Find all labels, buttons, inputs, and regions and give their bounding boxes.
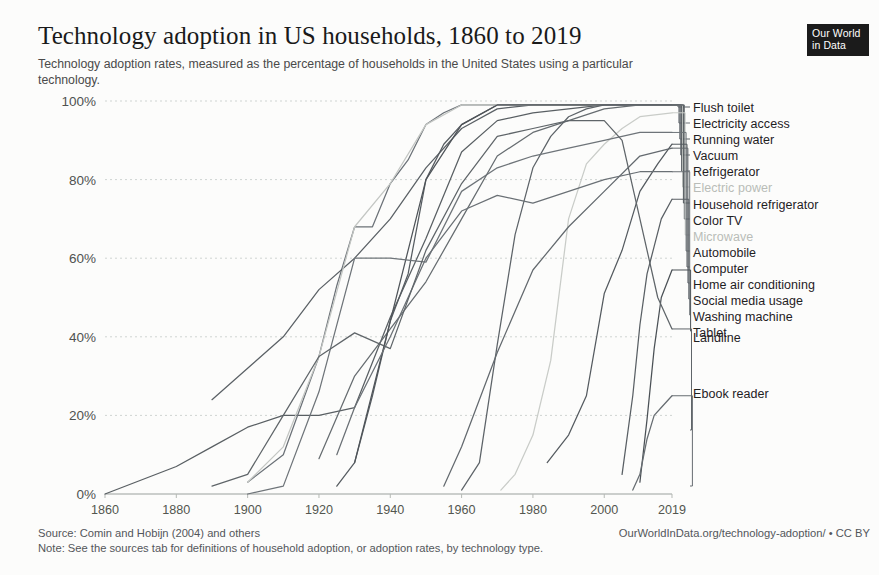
legend-item-automobile[interactable]: Automobile: [693, 245, 879, 261]
series-line-running-water[interactable]: [212, 105, 672, 400]
leader-line-home-air-conditioning: [672, 148, 690, 283]
leader-line-computer: [672, 144, 690, 267]
leader-line-electric-power: [672, 105, 690, 187]
series-line-automobile[interactable]: [248, 132, 672, 494]
series-line-ebook-reader[interactable]: [633, 396, 672, 490]
x-axis-tick-label: 1920: [305, 503, 333, 517]
chart-footer: Source: Comin and Hobijn (2004) and othe…: [38, 526, 870, 541]
chart-subtitle: Technology adoption rates, measured as t…: [38, 56, 693, 89]
x-axis-tick-label: 1980: [519, 503, 547, 517]
series-line-electricity-access[interactable]: [248, 105, 672, 482]
series-line-computer[interactable]: [547, 144, 672, 462]
leader-line-social-media-usage: [672, 199, 690, 299]
series-line-flush-toilet[interactable]: [105, 105, 672, 494]
x-axis-tick-label: 1860: [91, 503, 119, 517]
leader-line-microwave: [672, 113, 690, 235]
series-line-refrigerator[interactable]: [337, 105, 672, 486]
x-axis-tick-label: 1900: [234, 503, 262, 517]
legend-item-washing-machine[interactable]: Washing machine: [693, 309, 879, 325]
chart-header: Technology adoption in US households, 18…: [38, 22, 738, 88]
leader-line-automobile: [672, 132, 690, 251]
leader-line-electricity-access: [672, 105, 690, 123]
legend-item-running-water[interactable]: Running water: [693, 132, 879, 148]
leader-line-landline: [672, 329, 692, 430]
our-world-in-data-logo[interactable]: Our World in Data: [807, 24, 869, 56]
series-line-washing-machine[interactable]: [337, 172, 672, 455]
source-text: Source: Comin and Hobijn (2004) and othe…: [38, 526, 260, 542]
chart-page: Technology adoption in US households, 18…: [0, 0, 879, 575]
series-line-home-air-conditioning[interactable]: [444, 148, 672, 486]
legend-item-home-air-conditioning[interactable]: Home air conditioning: [693, 277, 879, 293]
series-line-tablet[interactable]: [640, 270, 672, 482]
legend-item-computer[interactable]: Computer: [693, 261, 879, 277]
legend-item-ebook-reader[interactable]: Ebook reader: [693, 386, 769, 402]
leader-line-washing-machine: [672, 172, 690, 315]
y-axis-tick-label: 80%: [69, 173, 96, 188]
logo-line-2: in Data: [812, 39, 864, 51]
leader-line-tablet: [672, 270, 691, 331]
series-line-household-refrigerator[interactable]: [355, 105, 672, 463]
legend-item-microwave[interactable]: Microwave: [693, 229, 879, 245]
legend-item-social-media-usage[interactable]: Social media usage: [693, 293, 879, 309]
x-axis-labels: 186018801900192019401960198020002019: [91, 503, 686, 517]
page-title: Technology adoption in US households, 18…: [38, 22, 738, 51]
leader-line-ebook-reader: [672, 396, 692, 486]
leader-line-household-refrigerator: [672, 105, 690, 203]
y-axis-labels: 0%20%40%60%80%100%: [61, 94, 96, 502]
legend-item-household-refrigerator[interactable]: Household refrigerator: [693, 197, 879, 213]
legend-item-flush-toilet[interactable]: Flush toilet: [693, 100, 879, 116]
x-axis-tick-label: 1940: [376, 503, 404, 517]
legend-item-refrigerator[interactable]: Refrigerator: [693, 164, 879, 180]
x-axis-tick-label: 1960: [448, 503, 476, 517]
legend-item-color-tv[interactable]: Color TV: [693, 213, 879, 229]
y-axis-tick-label: 60%: [69, 251, 96, 266]
leader-line-vacuum: [672, 105, 690, 155]
series-line-color-tv[interactable]: [462, 105, 672, 490]
leader-line-refrigerator: [672, 105, 690, 171]
legend-leader-lines: [672, 105, 692, 486]
series-lines: [105, 105, 672, 494]
legend-item-electric-power[interactable]: Electric power: [693, 180, 879, 196]
leader-line-running-water: [672, 105, 690, 139]
legend-item-electricity-access[interactable]: Electricity access: [693, 116, 879, 132]
legend-item-vacuum[interactable]: Vacuum: [693, 148, 879, 164]
legend-item-landline[interactable]: Landline: [693, 330, 741, 346]
x-axis-ticks: [105, 494, 672, 498]
logo-line-1: Our World: [812, 27, 864, 39]
series-line-microwave[interactable]: [501, 113, 672, 490]
legend: Flush toiletElectricity accessRunning wa…: [693, 100, 879, 341]
leader-line-flush-toilet: [672, 105, 690, 107]
y-axis-tick-label: 40%: [69, 330, 96, 345]
y-axis-tick-label: 20%: [69, 408, 96, 423]
y-axis-tick-label: 0%: [76, 487, 96, 502]
note-text: Note: See the sources tab for definition…: [38, 541, 543, 557]
x-axis-tick-label: 2019: [658, 503, 686, 517]
gridlines: [105, 101, 672, 494]
leader-line-color-tv: [672, 105, 690, 219]
series-line-vacuum[interactable]: [319, 105, 672, 459]
x-axis-tick-label: 2000: [590, 503, 618, 517]
y-axis-tick-label: 100%: [61, 94, 96, 109]
x-axis-tick-label: 1880: [162, 503, 190, 517]
series-line-landline[interactable]: [212, 121, 672, 486]
series-line-electric-power[interactable]: [248, 105, 672, 482]
series-line-social-media-usage[interactable]: [622, 199, 672, 474]
owid-url-link[interactable]: OurWorldInData.org/technology-adoption/ …: [619, 526, 870, 542]
